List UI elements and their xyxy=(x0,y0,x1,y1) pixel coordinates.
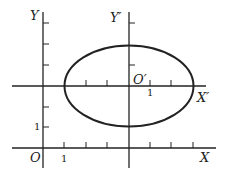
y-axis-label: Y xyxy=(30,8,40,23)
y-prime-axis-label: Y′ xyxy=(110,10,122,25)
y-unit-label: 1 xyxy=(34,121,40,132)
origin-prime-label: O′ xyxy=(133,72,147,87)
y-prime-axis-ticks xyxy=(129,23,135,65)
y-axis-ticks xyxy=(43,23,49,127)
x-unit-label: 1 xyxy=(61,153,67,164)
diagram-canvas: Y X O 1 1 Y′ X′ O′ 1 xyxy=(0,0,226,185)
x-prime-unit-label: 1 xyxy=(147,87,153,98)
x-axis-label: X xyxy=(199,150,210,165)
x-prime-axis-label: X′ xyxy=(196,90,209,105)
origin-label: O xyxy=(30,150,41,165)
